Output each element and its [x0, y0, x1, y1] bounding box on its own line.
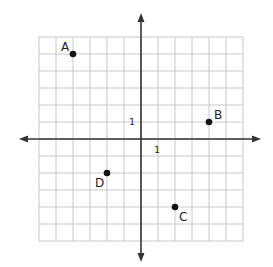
arrow-left-icon [19, 136, 28, 143]
point-label-a: A [61, 40, 70, 54]
y-tick-label: 1 [129, 117, 135, 127]
point-b [206, 119, 213, 126]
point-label-b: B [214, 108, 222, 122]
point-a [70, 51, 77, 58]
coordinate-plane: 11ABCD [0, 0, 273, 267]
point-label-c: C [179, 210, 187, 224]
arrow-right-icon [252, 136, 261, 143]
x-tick-label: 1 [154, 145, 160, 155]
point-c [172, 204, 179, 211]
point-label-d: D [95, 176, 104, 190]
arrow-down-icon [138, 253, 145, 262]
point-d [104, 170, 111, 177]
arrow-up-icon [138, 13, 145, 22]
